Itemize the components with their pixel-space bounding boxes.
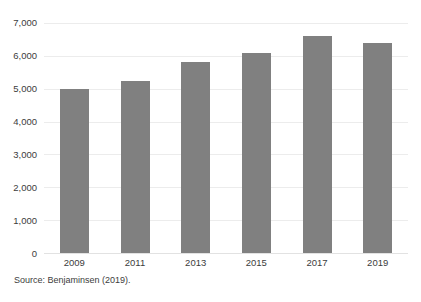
bar-slot: 2009 bbox=[44, 23, 105, 253]
y-axis-tick-label: 5,000 bbox=[13, 84, 37, 94]
bars-group: 200920112013201520172019 bbox=[44, 23, 408, 253]
y-axis-tick-label: 0 bbox=[32, 249, 37, 259]
y-axis-tick-label: 2,000 bbox=[13, 183, 37, 193]
y-axis-tick-label: 3,000 bbox=[13, 150, 37, 160]
bar[interactable] bbox=[303, 36, 332, 253]
bar[interactable] bbox=[363, 43, 392, 253]
bar-slot: 2011 bbox=[105, 23, 166, 253]
chart-title-fragment bbox=[14, 0, 204, 4]
bar-slot: 2019 bbox=[347, 23, 408, 253]
x-axis-tick-label: 2017 bbox=[306, 258, 327, 268]
x-axis-tick-label: 2009 bbox=[64, 258, 85, 268]
source-note: Source: Benjaminsen (2019). bbox=[14, 275, 131, 286]
x-axis-tick-label: 2013 bbox=[185, 258, 206, 268]
bar[interactable] bbox=[181, 62, 210, 253]
bar-chart-figure: 01,0002,0003,0004,0005,0006,0007,000 200… bbox=[0, 0, 421, 302]
x-axis-tick-label: 2011 bbox=[125, 258, 145, 268]
x-axis-tick-label: 2015 bbox=[246, 258, 267, 268]
bar[interactable] bbox=[60, 89, 89, 253]
x-axis-tick-label: 2019 bbox=[367, 258, 388, 268]
y-axis-tick-label: 4,000 bbox=[13, 117, 37, 127]
y-axis-tick-label: 6,000 bbox=[13, 51, 37, 61]
bar[interactable] bbox=[242, 53, 271, 253]
bar-slot: 2013 bbox=[165, 23, 226, 253]
bar-slot: 2015 bbox=[226, 23, 287, 253]
y-axis-tick-label: 7,000 bbox=[13, 18, 37, 28]
plot-area: 01,0002,0003,0004,0005,0006,0007,000 200… bbox=[44, 23, 408, 253]
bar-slot: 2017 bbox=[287, 23, 348, 253]
bar[interactable] bbox=[121, 81, 150, 254]
gridline: 0 bbox=[44, 253, 408, 254]
y-axis-tick-label: 1,000 bbox=[13, 216, 37, 226]
